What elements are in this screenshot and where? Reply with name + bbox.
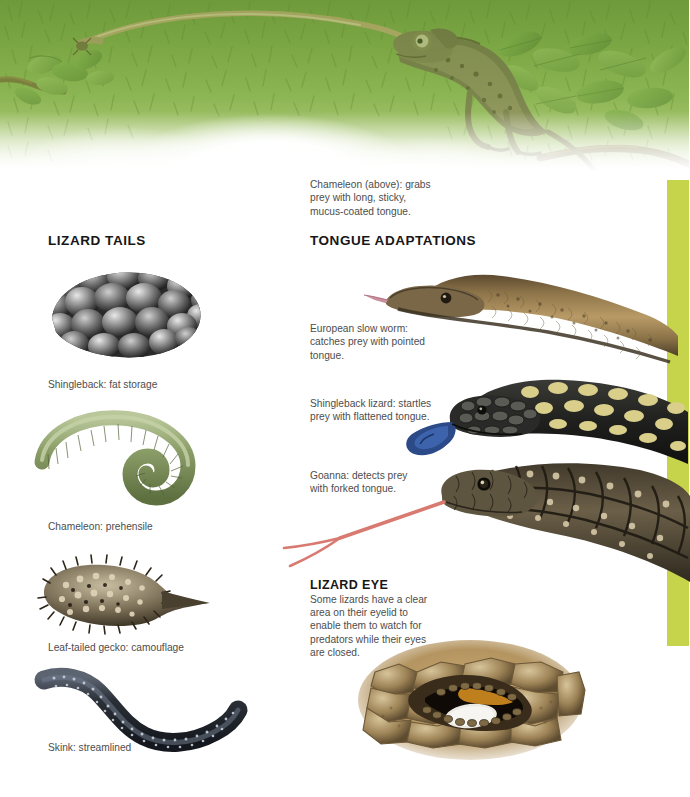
leaf-tailed-gecko-tail-figure xyxy=(36,557,221,632)
banner-bottom-fade xyxy=(0,112,689,172)
caption-gecko-tail: Leaf-tailed gecko: camouflage xyxy=(48,641,184,654)
chameleon-tail-figure xyxy=(36,408,216,508)
callout-chameleon: Chameleon (above): grabs prey with long,… xyxy=(310,178,440,218)
chameleon-banner xyxy=(0,0,689,172)
callout-shingleback: Shingleback lizard: startles prey with f… xyxy=(310,397,432,424)
caption-skink-tail: Skink: streamlined xyxy=(48,741,131,754)
callout-goanna: Goanna: detects prey with forked tongue. xyxy=(310,469,428,496)
goanna-figure xyxy=(400,452,690,602)
heading-lizard-eye: LIZARD EYE xyxy=(310,578,388,592)
callout-slow-worm: European slow worm: catches prey with po… xyxy=(310,322,435,362)
caption-chameleon-tail: Chameleon: prehensile xyxy=(48,520,153,533)
left-branch xyxy=(0,46,115,108)
shingleback-tail-figure xyxy=(38,258,218,363)
heading-lizard-tails: LIZARD TAILS xyxy=(48,233,146,248)
heading-tongue-adaptations: TONGUE ADAPTATIONS xyxy=(310,233,476,248)
caption-shingleback-tail: Shingleback: fat storage xyxy=(48,378,157,391)
lizard-eye-figure xyxy=(355,638,585,763)
